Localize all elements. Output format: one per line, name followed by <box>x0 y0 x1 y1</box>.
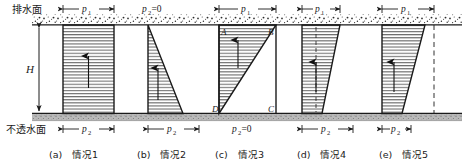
pressure-distribution-figure: H 排水面 不透水面 p 1 p 2 p <box>0 0 467 167</box>
panel-a-bottom-label: p <box>81 124 87 134</box>
height-label: H <box>25 63 35 75</box>
caption-e-tag: (e) <box>379 149 392 160</box>
caption-b-tag: (b) <box>137 149 150 160</box>
panel-c-top-label-sub: 1 <box>247 9 250 16</box>
panel-c-bottom-label-eq: =0 <box>242 124 252 134</box>
panel-b-top-dimension: p 2 =0 <box>141 4 162 16</box>
caption-e-label: 情况5 <box>402 149 428 160</box>
caption-a-tag: (a) <box>49 149 62 160</box>
drainage-surface-label: 排水面 <box>12 3 42 15</box>
panel-c-bottom-label: p <box>231 124 237 134</box>
caption-d-label: 情况4 <box>320 149 346 160</box>
panel-d-top-label: p <box>314 4 320 14</box>
drainage-surface-layer <box>32 15 462 25</box>
panel-b-top-label: p <box>141 4 147 14</box>
panel-a-top-label: p <box>81 4 87 14</box>
panel-d-top-label-sub: 1 <box>321 9 324 16</box>
caption-a-label: 情况1 <box>72 149 98 160</box>
panel-a-bottom-label-sub: 2 <box>88 129 91 136</box>
panel-e-bottom-label: p <box>390 124 396 134</box>
panel-b-top-label-eq: =0 <box>152 4 162 14</box>
panel-b-bottom-label-sub: 2 <box>173 129 176 136</box>
panel-e-top-label-sub: 1 <box>407 9 410 16</box>
panel-e-top-label: p <box>400 4 406 14</box>
corner-label-D: D <box>211 104 219 114</box>
impervious-surface-layer <box>32 114 462 121</box>
panel-d-bottom-label-sub: 2 <box>327 129 330 136</box>
panel-e-bottom-label-sub: 2 <box>397 129 400 136</box>
caption-d-tag: (d) <box>297 149 310 160</box>
panel-a-top-label-sub: 1 <box>88 9 91 16</box>
corner-label-A: A <box>220 27 227 37</box>
impervious-surface-label: 不透水面 <box>6 124 46 135</box>
panel-c-bottom-dimension: p 2 =0 <box>231 124 252 136</box>
panel-c-top-label: p <box>240 4 246 14</box>
caption-b-label: 情况2 <box>160 149 186 160</box>
corner-label-C: C <box>268 104 275 114</box>
panel-b-bottom-label: p <box>166 124 172 134</box>
corner-label-B: B <box>268 27 274 37</box>
caption-c-label: 情况3 <box>238 149 264 160</box>
panel-d-bottom-label: p <box>320 124 326 134</box>
caption-c-tag: (c) <box>215 149 228 160</box>
